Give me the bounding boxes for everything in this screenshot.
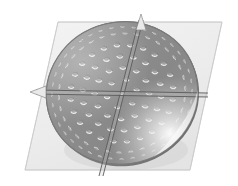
scene-svg xyxy=(0,0,238,186)
render-canvas xyxy=(0,0,238,186)
horizontal-plane-arrow-icon[interactable] xyxy=(30,86,46,98)
